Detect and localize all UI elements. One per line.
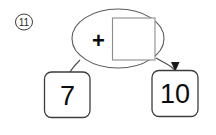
- problem-number-marker: 11: [16, 14, 33, 30]
- plus-icon: +: [92, 28, 105, 53]
- problem-number-label: 11: [19, 17, 30, 28]
- answer-blank-box[interactable]: [113, 18, 156, 60]
- math-bond-diagram: 11 + 7 10: [0, 0, 216, 135]
- addend-value: 7: [60, 81, 75, 111]
- worksheet-page: 11 + 7 10: [0, 0, 216, 135]
- total-value: 10: [160, 79, 190, 109]
